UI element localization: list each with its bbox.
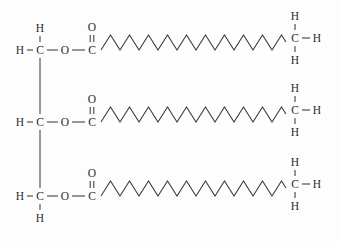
terminal-hydrogen-right-2: H [313, 104, 321, 116]
ester-oxygen-1: O [61, 44, 69, 56]
carbonyl-carbon-3: C [88, 190, 96, 202]
hydrogen-label-top-1: H [36, 22, 44, 34]
carbonyl-oxygen-1: O [88, 21, 96, 33]
hydrogen-label-left-3: H [16, 190, 24, 202]
triglyceride-svg: HCHOCOHCOCOHCHOCOCHHHCHHHCHHH [0, 0, 340, 242]
terminal-hydrogen-bottom-2: H [291, 126, 299, 138]
hydrocarbon-chain-2 [101, 107, 286, 122]
carbonyl-carbon-1: C [88, 44, 96, 56]
hydrogen-label-bottom-3: H [36, 212, 44, 224]
glycerol-carbon-1: C [36, 44, 44, 56]
hydrogen-label-left-1: H [16, 44, 24, 56]
terminal-hydrogen-bottom-1: H [291, 54, 299, 66]
ester-oxygen-3: O [61, 190, 69, 202]
carbonyl-oxygen-2: O [88, 93, 96, 105]
glycerol-carbon-2: C [36, 116, 44, 128]
terminal-carbon-1: C [291, 32, 299, 44]
terminal-carbon-3: C [291, 178, 299, 190]
hydrocarbon-chain-3 [101, 181, 286, 196]
terminal-hydrogen-bottom-3: H [291, 200, 299, 212]
terminal-carbon-2: C [291, 104, 299, 116]
hydrocarbon-chain-1 [101, 35, 286, 50]
terminal-hydrogen-right-1: H [313, 32, 321, 44]
carbonyl-oxygen-3: O [88, 167, 96, 179]
terminal-hydrogen-right-3: H [313, 178, 321, 190]
terminal-hydrogen-top-2: H [291, 82, 299, 94]
hydrogen-label-left-2: H [16, 116, 24, 128]
molecule-diagram: HCHOCOHCOCOHCHOCOCHHHCHHHCHHH [0, 0, 340, 242]
carbonyl-carbon-2: C [88, 116, 96, 128]
ester-oxygen-2: O [61, 116, 69, 128]
terminal-hydrogen-top-3: H [291, 156, 299, 168]
glycerol-carbon-3: C [36, 190, 44, 202]
terminal-hydrogen-top-1: H [291, 10, 299, 22]
